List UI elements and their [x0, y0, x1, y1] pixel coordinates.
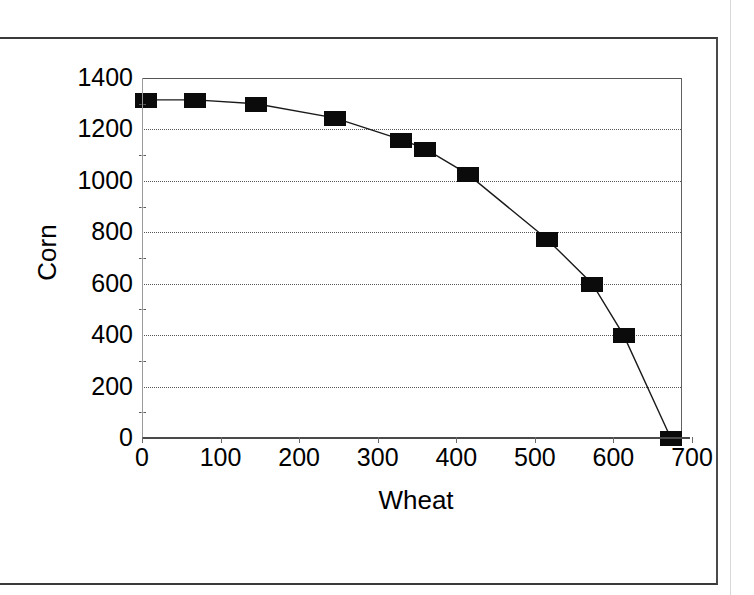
y-minor-tick-300 — [139, 361, 146, 363]
x-tick-label-0: 0 — [107, 445, 177, 470]
x-tick-label-600: 600 — [578, 445, 648, 470]
x-tick-label-500: 500 — [500, 445, 570, 470]
x-tick-200 — [299, 437, 300, 443]
y-minor-tick-100 — [139, 412, 146, 414]
x-tick-label-100: 100 — [186, 445, 256, 470]
y-minor-tick-700 — [139, 258, 146, 260]
x-tick-label-700: 700 — [657, 445, 727, 470]
scan-artifact-streak — [730, 0, 731, 595]
y-tick-label-text: 1400 — [55, 65, 133, 90]
y-tick-label-200: 200 — [55, 374, 133, 400]
plot-right-border — [681, 78, 682, 438]
x-tick-400 — [456, 437, 457, 443]
y-minor-tick-500 — [139, 309, 146, 311]
x-tick-500 — [535, 437, 536, 443]
x-tick-label-300: 300 — [343, 445, 413, 470]
y-tick-label-800: 800 — [55, 219, 133, 245]
x-tick-700 — [692, 437, 693, 443]
y-tick-label-text: 400 — [55, 322, 133, 347]
x-axis-line — [142, 437, 690, 439]
data-point-marker — [581, 277, 603, 292]
y-tick-label-text: 200 — [55, 374, 133, 399]
x-tick-label-200: 200 — [264, 445, 334, 470]
x-tick-100 — [221, 437, 222, 443]
y-tick-label-1200: 1200 — [55, 116, 133, 142]
data-point-marker — [613, 328, 635, 343]
data-point-marker — [536, 232, 558, 247]
y-minor-tick-1300 — [139, 104, 146, 106]
data-point-marker — [390, 133, 412, 148]
y-tick-label-text: 600 — [55, 271, 133, 296]
x-tick-300 — [378, 437, 379, 443]
x-tick-600 — [613, 437, 614, 443]
chart-figure: 0200400600800100012001400 01002003004005… — [0, 37, 718, 585]
y-tick-label-text: 1000 — [55, 168, 133, 193]
plot-area — [142, 78, 681, 474]
y-tick-label-1000: 1000 — [55, 168, 133, 194]
y-tick-label-text: 1200 — [55, 116, 133, 141]
x-axis-title: Wheat — [142, 485, 690, 516]
data-point-marker — [324, 111, 346, 126]
data-point-marker — [184, 93, 206, 108]
y-axis-title: Corn — [32, 218, 63, 288]
data-point-marker — [457, 167, 479, 182]
data-point-marker — [414, 142, 436, 157]
y-minor-tick-900 — [139, 207, 146, 209]
y-minor-tick-1100 — [139, 155, 146, 157]
y-tick-label-text: 800 — [55, 219, 133, 244]
series-polyline — [146, 100, 671, 438]
y-tick-label-1400: 1400 — [55, 65, 133, 91]
y-tick-label-600: 600 — [55, 271, 133, 297]
data-point-marker — [245, 97, 267, 112]
x-tick-0 — [142, 437, 143, 443]
y-tick-label-400: 400 — [55, 322, 133, 348]
x-tick-label-400: 400 — [421, 445, 491, 470]
